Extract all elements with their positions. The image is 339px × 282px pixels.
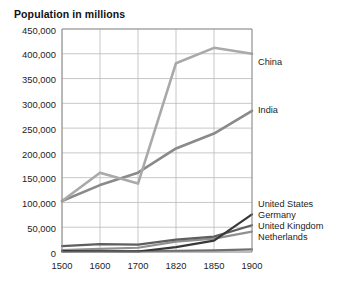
axis-lines [62,29,252,252]
gridlines [62,29,252,252]
population-line-chart: Population in millions 450,000 400,000 3… [0,0,339,282]
plot-area [0,0,339,282]
